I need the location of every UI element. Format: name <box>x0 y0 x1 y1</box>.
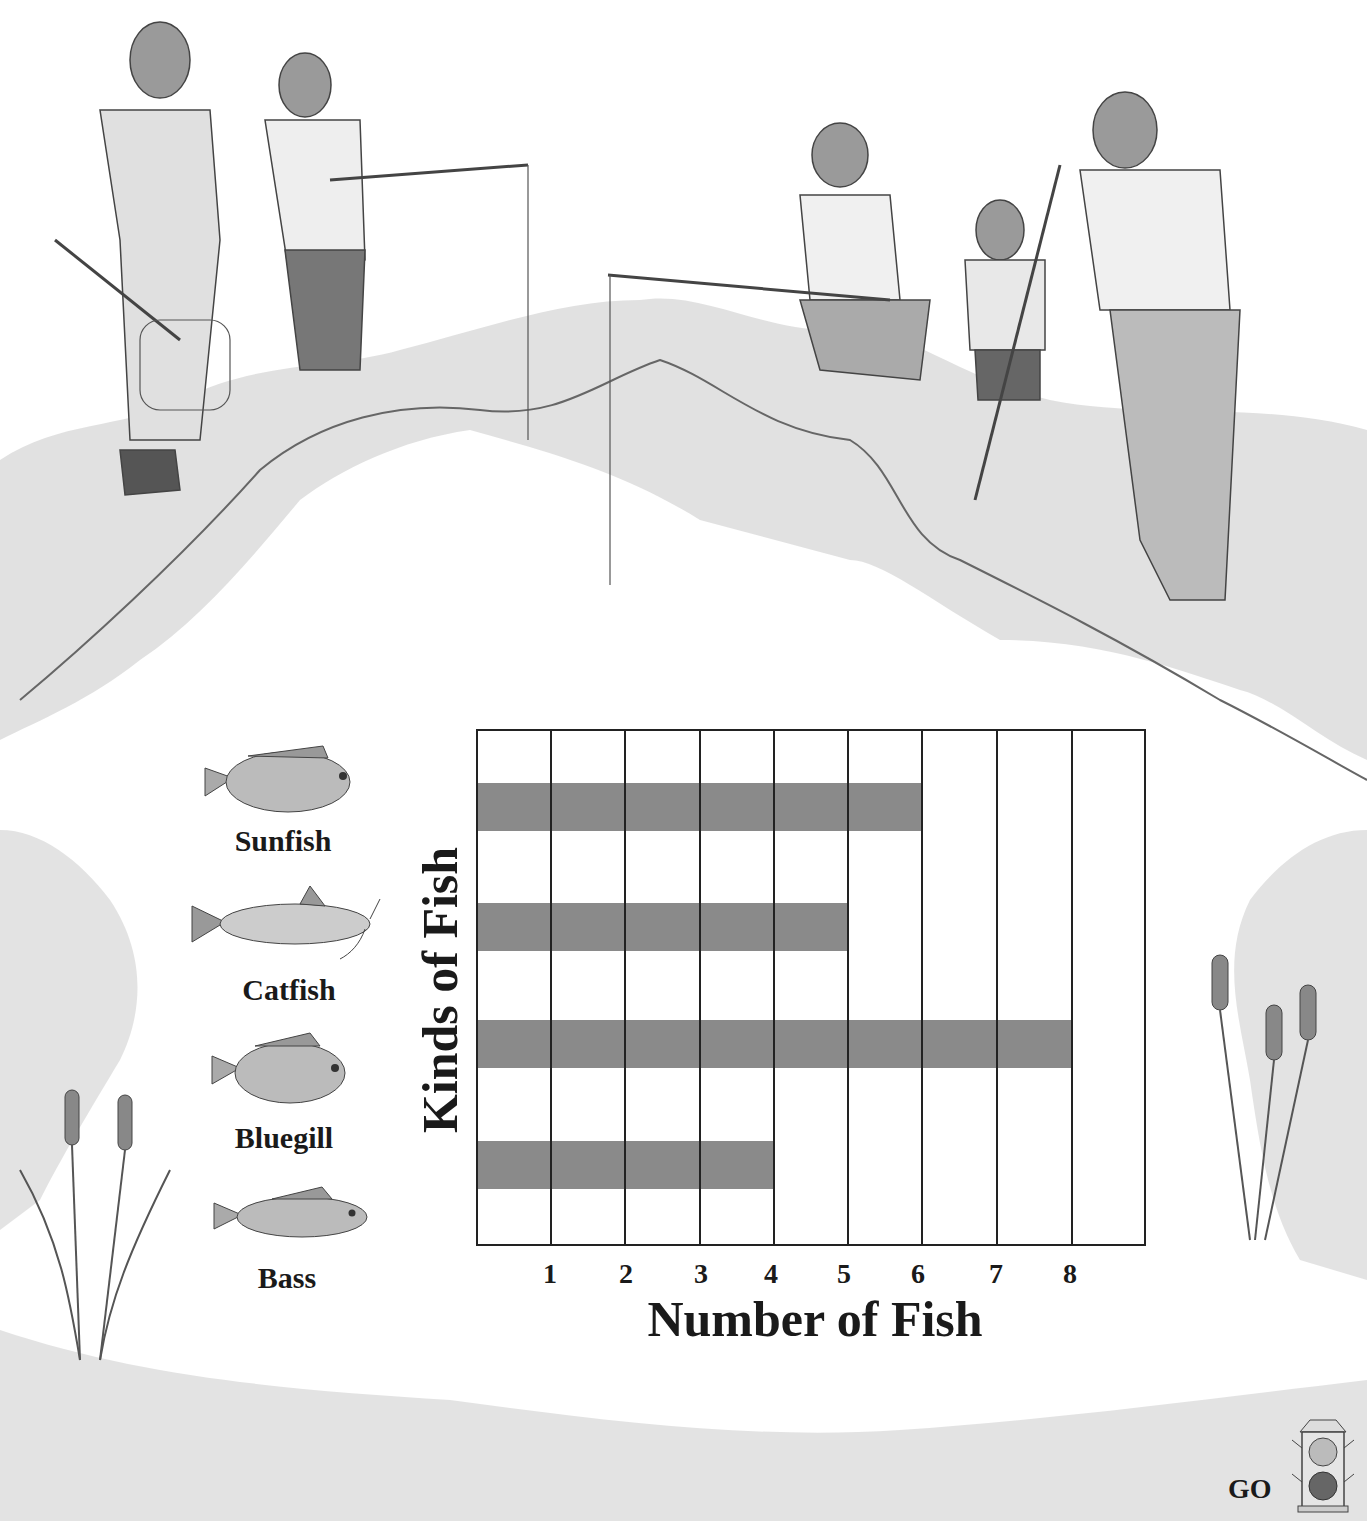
fish-label-sunfish: Sunfish <box>183 824 383 858</box>
grid-line <box>699 731 701 1244</box>
fish-label-bass: Bass <box>187 1261 387 1295</box>
bar-chart-grid <box>476 729 1146 1246</box>
x-tick: 3 <box>681 1258 721 1290</box>
sunfish-icon <box>203 738 363 820</box>
grid-line <box>847 731 849 1244</box>
bass-icon <box>212 1185 382 1247</box>
traffic-light-icon <box>1290 1418 1356 1514</box>
grid-line <box>624 731 626 1244</box>
bar-catfish <box>478 903 848 951</box>
grid-line <box>550 731 552 1244</box>
x-tick: 5 <box>824 1258 864 1290</box>
go-label: GO <box>1228 1473 1272 1505</box>
fish-label-catfish: Catfish <box>189 973 389 1007</box>
x-tick: 6 <box>898 1258 938 1290</box>
x-tick: 4 <box>751 1258 791 1290</box>
bluegill-icon <box>210 1028 360 1110</box>
fish-label-bluegill: Bluegill <box>184 1121 384 1155</box>
grid-line <box>921 731 923 1244</box>
grid-line <box>996 731 998 1244</box>
bar-bluegill <box>478 1020 1071 1068</box>
x-tick: 1 <box>530 1258 570 1290</box>
grid-line <box>773 731 775 1244</box>
catfish-icon <box>190 884 390 962</box>
x-tick: 7 <box>976 1258 1016 1290</box>
grid-line <box>1071 731 1073 1244</box>
x-tick: 2 <box>606 1258 646 1290</box>
x-tick: 8 <box>1050 1258 1090 1290</box>
y-axis-label: Kinds of Fish <box>411 847 469 1133</box>
bar-bass <box>478 1141 774 1189</box>
x-axis-label: Number of Fish <box>560 1290 1070 1348</box>
